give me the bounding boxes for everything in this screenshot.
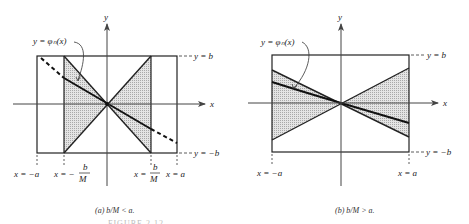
label-y-neg-b: y = −b [193, 148, 220, 158]
x-axis-label: x [209, 99, 214, 109]
frac-num: b [83, 162, 88, 172]
label-x-pos-bm: x = [133, 169, 146, 179]
panel-b: y x y = φₙ(x) y = b y = −b x = −a x = a … [248, 12, 452, 215]
label-y-b: y = b [193, 51, 214, 61]
shaded-region-left [272, 70, 341, 140]
figure-caption-partial: FIGURE 2.12 [108, 219, 164, 224]
figure-canvas: y x y = φₙ(x) y = b y = −b x = −a x = − … [0, 0, 469, 224]
curve-label: y = φₙ(x) [260, 37, 295, 47]
y-axis-label: y [337, 12, 342, 22]
label-x-pos-a: x = a [165, 169, 186, 179]
frac-den: M [78, 174, 87, 184]
label-y-b: y = b [426, 50, 447, 60]
panel-b-caption: (b) b/M > a. [335, 206, 375, 215]
curve-label: y = φₙ(x) [32, 36, 67, 46]
curve-phi-n-dashed [151, 129, 177, 143]
label-x-pos-a: x = a [397, 168, 418, 178]
label-x-neg-bm: x = − [53, 169, 75, 179]
label-x-neg-a: x = −a [256, 168, 283, 178]
panel-a-caption: (a) b/M < a. [95, 206, 135, 215]
frac-num: b [153, 162, 158, 172]
origin-point [105, 102, 109, 106]
label-x-neg-a: x = −a [13, 169, 40, 179]
panel-a: y x y = φₙ(x) y = b y = −b x = −a x = − … [13, 12, 220, 215]
x-axis-label: x [442, 98, 447, 108]
frac-den: M [149, 174, 158, 184]
curve-phi-n-dashed [41, 58, 64, 78]
y-axis-label: y [103, 12, 108, 22]
label-y-neg-b: y = −b [425, 147, 452, 157]
